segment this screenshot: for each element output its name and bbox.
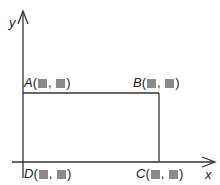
paren-close: ) — [67, 166, 71, 181]
paren-close: ) — [175, 75, 179, 90]
x-axis-label: x — [205, 168, 212, 181]
point-c-label: C(, ) — [136, 167, 183, 180]
point-a-label: A(, ) — [24, 76, 71, 89]
placeholder-box — [147, 79, 156, 88]
paren-open: ( — [145, 166, 149, 181]
point-b-name: B — [133, 75, 142, 90]
point-d-label: D(, ) — [24, 167, 71, 180]
placeholder-box — [38, 79, 47, 88]
paren-open: ( — [142, 75, 146, 90]
paren-open: ( — [33, 75, 37, 90]
comma: , — [49, 166, 56, 181]
placeholder-box — [57, 170, 66, 179]
y-axis-label: y — [9, 16, 16, 29]
diagram-graphics — [0, 0, 220, 185]
paren-open: ( — [33, 166, 37, 181]
paren-close: ) — [66, 75, 70, 90]
comma: , — [157, 75, 164, 90]
coordinate-diagram: y x A(, ) B(, ) C(, ) D(, ) — [0, 0, 220, 185]
point-d-name: D — [24, 166, 33, 181]
paren-close: ) — [179, 166, 183, 181]
point-c-name: C — [136, 166, 145, 181]
point-b-label: B(, ) — [133, 76, 180, 89]
placeholder-box — [169, 170, 178, 179]
point-a-name: A — [24, 75, 33, 90]
comma: , — [48, 75, 55, 90]
placeholder-box — [165, 79, 174, 88]
placeholder-box — [39, 170, 48, 179]
comma: , — [161, 166, 168, 181]
placeholder-box — [151, 170, 160, 179]
placeholder-box — [56, 79, 65, 88]
